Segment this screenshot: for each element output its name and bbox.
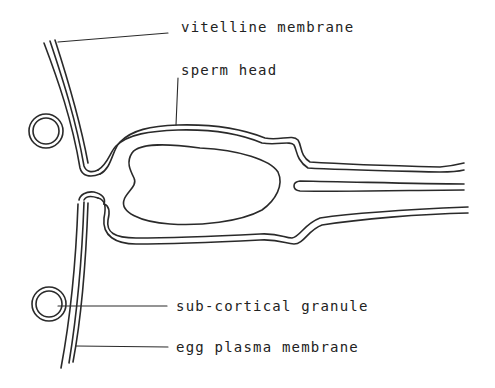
label-egg-plasma-membrane: egg plasma membrane xyxy=(176,339,359,355)
sub-cortical-granules xyxy=(29,114,66,321)
sperm-nucleus xyxy=(123,145,280,225)
upper-egg-membranes xyxy=(44,40,100,176)
diagram-canvas: vitelline membrane sperm head sub-cortic… xyxy=(0,0,495,388)
label-sperm-head: sperm head xyxy=(181,62,277,78)
label-vitelline-membrane: vitelline membrane xyxy=(181,19,354,35)
diagram-drawing xyxy=(0,0,495,388)
lower-egg-membranes xyxy=(61,192,105,368)
sperm-tail-core xyxy=(294,181,464,191)
leader-lines xyxy=(58,33,178,347)
label-sub-cortical-granule: sub-cortical granule xyxy=(176,298,369,314)
sperm-head-outline xyxy=(98,125,468,244)
